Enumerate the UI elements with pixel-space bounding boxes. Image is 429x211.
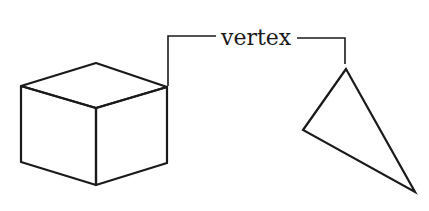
vertex-diagram: vertex [0, 0, 429, 211]
cube-right-face [96, 87, 167, 185]
triangle-outline [303, 69, 415, 192]
vertex-label: vertex [220, 25, 292, 50]
cube-left-face [21, 86, 96, 185]
triangle [303, 69, 415, 192]
leader-line-to-cube-vertex [168, 36, 216, 86]
cube [21, 63, 167, 185]
leader-line-to-triangle-vertex [297, 38, 345, 64]
cube-top-face [21, 63, 167, 108]
